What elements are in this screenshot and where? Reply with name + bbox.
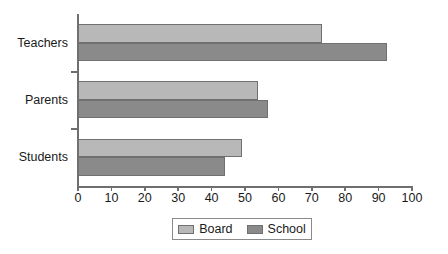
bar-students-board	[78, 139, 242, 158]
bar-parents-board	[78, 81, 258, 100]
x-axis-tick-label: 50	[238, 192, 252, 205]
legend-entry-school: School	[247, 223, 306, 236]
x-axis-tick-label: 20	[138, 192, 152, 205]
bar-parents-school	[78, 100, 268, 119]
y-axis-tick	[71, 128, 78, 130]
x-axis-tick-label: 30	[171, 192, 185, 205]
x-axis-tick-label: 60	[271, 192, 285, 205]
legend-label-school: School	[268, 223, 306, 236]
category-label-parents: Parents	[0, 94, 68, 107]
bar-teachers-school	[78, 43, 387, 62]
legend-swatch-board-icon	[178, 225, 194, 234]
x-axis-tick-label: 100	[402, 192, 423, 205]
bar-chart: 0102030405060708090100 TeachersParentsSt…	[0, 0, 448, 254]
x-axis-tick-label: 10	[104, 192, 118, 205]
bar-students-school	[78, 157, 225, 176]
x-axis-tick-label: 80	[338, 192, 352, 205]
category-label-teachers: Teachers	[0, 37, 68, 50]
bar-teachers-board	[78, 24, 322, 43]
legend-swatch-school-icon	[247, 225, 263, 234]
plot-area	[78, 14, 412, 186]
legend-label-board: Board	[199, 223, 232, 236]
chart-legend: Board School	[172, 218, 312, 240]
x-axis-tick-label: 0	[75, 192, 82, 205]
category-label-students: Students	[0, 151, 68, 164]
legend-entry-board: Board	[178, 223, 232, 236]
x-axis-tick-label: 40	[205, 192, 219, 205]
x-axis-tick-label: 90	[372, 192, 386, 205]
y-axis-tick	[71, 71, 78, 73]
x-axis-tick-label: 70	[305, 192, 319, 205]
